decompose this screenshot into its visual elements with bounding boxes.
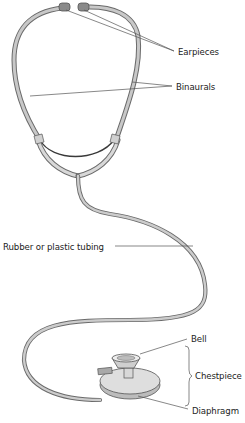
- binaural-left: [14, 8, 62, 140]
- label-diaphragm: Diaphragm: [192, 406, 239, 416]
- spring: [40, 140, 114, 157]
- stethoscope-illustration: [0, 0, 245, 423]
- earpiece-right: [78, 3, 89, 11]
- label-chestpiece: Chestpiece: [195, 371, 242, 381]
- chestpiece-brace: [185, 346, 192, 406]
- leader-diaphragm: [138, 396, 188, 409]
- tubing: [24, 176, 205, 400]
- y-connector: [34, 134, 120, 176]
- label-binaurals: Binaurals: [176, 82, 215, 92]
- label-earpieces: Earpieces: [178, 47, 219, 57]
- leader-binaural-right: [132, 82, 172, 86]
- leader-earpiece-left: [66, 10, 174, 51]
- earpiece-left: [59, 3, 70, 11]
- binaural-right: [86, 7, 139, 140]
- stethoscope-diagram: Earpieces Binaurals Rubber or plastic tu…: [0, 0, 245, 423]
- chestpiece: [98, 354, 160, 399]
- label-tubing: Rubber or plastic tubing: [3, 242, 104, 252]
- leader-bell: [140, 339, 187, 354]
- leader-binaural-left: [30, 86, 172, 96]
- leader-lines: [30, 10, 193, 409]
- label-bell: Bell: [191, 334, 207, 344]
